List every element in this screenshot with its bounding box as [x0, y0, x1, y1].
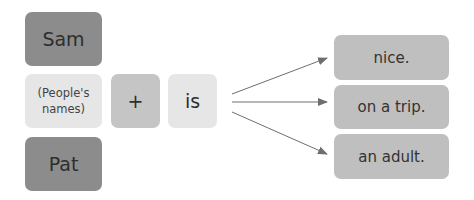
predicate-nice-box: nice. [334, 35, 449, 80]
predicate-trip-box: on a trip. [334, 85, 449, 129]
predicate-nice-label: nice. [374, 49, 410, 67]
arrow-to-adult [232, 112, 327, 154]
predicate-adult-box: an adult. [334, 134, 449, 179]
predicate-trip-label: on a trip. [358, 98, 426, 116]
predicate-adult-label: an adult. [358, 148, 425, 166]
arrow-to-nice [232, 58, 327, 94]
